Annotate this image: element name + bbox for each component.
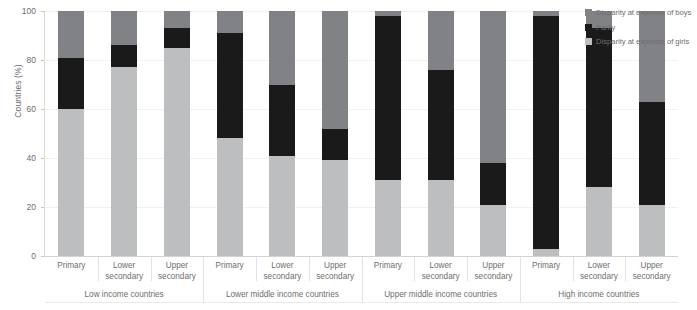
- chart-legend: Disparity at expense of boysParityDispar…: [585, 8, 697, 52]
- legend-label: Parity: [596, 23, 615, 32]
- x-axis-separator: [256, 257, 257, 281]
- bar-lower-secondary[interactable]: [269, 11, 295, 256]
- x-axis-group-label: Low income countries: [45, 290, 203, 300]
- stacked-bar-chart: Countries (%) 020406080100 PrimaryLowers…: [0, 0, 697, 310]
- bar-segment: [480, 163, 506, 205]
- legend-item[interactable]: Disparity at expense of boys: [585, 8, 697, 17]
- legend-swatch-icon: [585, 24, 592, 31]
- bar-segment: [269, 11, 295, 85]
- bar-segment: [58, 109, 84, 256]
- bar-segment: [269, 156, 295, 256]
- legend-item[interactable]: Parity: [585, 23, 697, 32]
- bar-segment: [375, 16, 401, 180]
- x-axis-tick-label: Lowersecondary: [98, 261, 151, 282]
- bar-segment: [322, 129, 348, 161]
- x-axis-tick-label: Uppersecondary: [151, 261, 204, 282]
- bar-segment: [164, 28, 190, 48]
- x-axis-separator: [151, 257, 152, 281]
- x-axis-bottom-rule: [45, 302, 678, 303]
- x-axis-separator: [625, 257, 626, 281]
- bar-upper-secondary[interactable]: [164, 11, 190, 256]
- bar-segment: [428, 11, 454, 70]
- legend-label: Disparity at expense of girls: [596, 37, 689, 46]
- y-axis-tick-label: 60: [0, 105, 36, 114]
- x-axis-tick-label: Primary: [520, 261, 573, 272]
- x-axis-tick-label: Primary: [45, 261, 98, 272]
- bar-upper-secondary[interactable]: [322, 11, 348, 256]
- bar-segment: [217, 11, 243, 33]
- x-axis-tick-label: Primary: [203, 261, 256, 272]
- bar-segment: [480, 205, 506, 256]
- bar-segment: [58, 58, 84, 109]
- bar-segment: [164, 48, 190, 256]
- bar-segment: [111, 45, 137, 67]
- y-axis-tick-label: 80: [0, 56, 36, 65]
- x-axis-tick-label: Lowersecondary: [256, 261, 309, 282]
- y-axis-tick-label: 20: [0, 203, 36, 212]
- bar-segment: [164, 11, 190, 28]
- legend-swatch-icon: [585, 9, 592, 16]
- x-axis-group-label: Upper middle income countries: [362, 290, 520, 300]
- legend-label: Disparity at expense of boys: [596, 8, 691, 17]
- x-axis: PrimaryLowersecondaryUppersecondaryLow i…: [45, 257, 678, 310]
- plot-area: [45, 11, 678, 256]
- bar-primary[interactable]: [217, 11, 243, 256]
- bar-segment: [111, 11, 137, 45]
- x-axis-separator: [309, 257, 310, 281]
- y-axis-title: Countries (%): [13, 21, 23, 161]
- legend-item[interactable]: Disparity at expense of girls: [585, 37, 697, 46]
- bar-segment: [586, 187, 612, 256]
- bar-segment: [322, 160, 348, 256]
- legend-swatch-icon: [585, 38, 592, 45]
- bar-segment: [428, 180, 454, 256]
- bar-segment: [586, 28, 612, 187]
- x-axis-separator: [573, 257, 574, 281]
- x-axis-tick-label: Lowersecondary: [573, 261, 626, 282]
- x-axis-separator: [467, 257, 468, 281]
- bar-lower-secondary[interactable]: [428, 11, 454, 256]
- bar-segment: [533, 249, 559, 256]
- bar-primary[interactable]: [533, 11, 559, 256]
- x-axis-tick-label: Primary: [362, 261, 415, 272]
- y-axis-tick-label: 40: [0, 154, 36, 163]
- bar-segment: [269, 85, 295, 156]
- x-axis-group-separator: [362, 257, 363, 302]
- x-axis-group-separator: [203, 257, 204, 302]
- bar-segment: [217, 138, 243, 256]
- bar-primary[interactable]: [58, 11, 84, 256]
- x-axis-tick-label: Uppersecondary: [309, 261, 362, 282]
- bar-primary[interactable]: [375, 11, 401, 256]
- x-axis-tick-label: Uppersecondary: [625, 261, 678, 282]
- bar-segment: [533, 16, 559, 249]
- bar-segment: [217, 33, 243, 138]
- bar-segment: [322, 11, 348, 129]
- bar-segment: [375, 180, 401, 256]
- y-axis-tick-label: 0: [0, 252, 36, 261]
- bar-segment: [480, 11, 506, 163]
- x-axis-group-label: High income countries: [520, 290, 678, 300]
- x-axis-group-label: Lower middle income countries: [203, 290, 361, 300]
- bar-segment: [111, 67, 137, 256]
- x-axis-tick-label: Lowersecondary: [414, 261, 467, 282]
- bar-segment: [639, 102, 665, 205]
- bar-segment: [58, 11, 84, 58]
- y-axis-tick-label: 100: [0, 7, 36, 16]
- x-axis-group-separator: [520, 257, 521, 302]
- bar-segment: [639, 205, 665, 256]
- bar-upper-secondary[interactable]: [480, 11, 506, 256]
- x-axis-tick-label: Uppersecondary: [467, 261, 520, 282]
- x-axis-separator: [414, 257, 415, 281]
- bar-lower-secondary[interactable]: [111, 11, 137, 256]
- bar-segment: [428, 70, 454, 180]
- x-axis-separator: [98, 257, 99, 281]
